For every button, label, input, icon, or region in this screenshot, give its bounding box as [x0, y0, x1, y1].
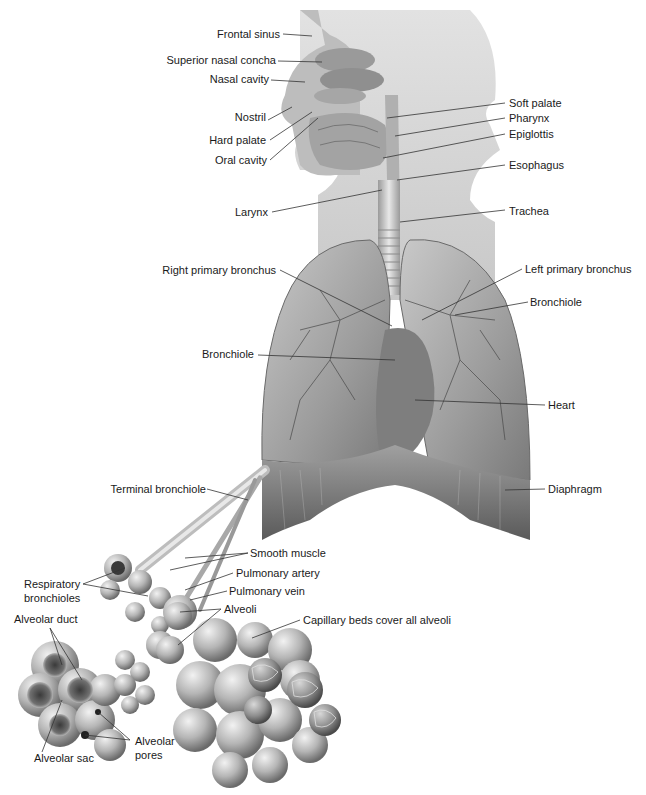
label-pulmonary-artery: Pulmonary artery	[236, 567, 320, 580]
label-frontal-sinus: Frontal sinus	[217, 28, 280, 41]
label-terminal-bronchiole: Terminal bronchiole	[111, 483, 206, 496]
label-pulmonary-vein: Pulmonary vein	[229, 585, 305, 598]
label-heart: Heart	[548, 399, 575, 412]
label-diaphragm: Diaphragm	[548, 483, 602, 496]
label-oral-cavity: Oral cavity	[215, 154, 267, 167]
label-esophagus: Esophagus	[509, 159, 564, 172]
respiratory-diagram: Frontal sinus Superior nasal concha Nasa…	[0, 0, 646, 795]
label-respiratory-bronchioles-line1: Respiratory	[24, 578, 80, 591]
label-left-primary-bronchus: Left primary bronchus	[525, 263, 631, 276]
label-alveolar-pores-line2: pores	[135, 749, 163, 762]
label-bronchiole-right: Bronchiole	[202, 348, 254, 361]
label-nasal-cavity: Nasal cavity	[210, 73, 269, 86]
label-hard-palate: Hard palate	[209, 134, 266, 147]
label-alveolar-duct: Alveolar duct	[14, 613, 78, 626]
label-respiratory-bronchioles-line2: bronchioles	[24, 592, 80, 605]
label-superior-nasal-concha: Superior nasal concha	[167, 54, 276, 67]
label-pharynx: Pharynx	[509, 112, 549, 125]
label-smooth-muscle: Smooth muscle	[250, 547, 326, 560]
label-right-primary-bronchus: Right primary bronchus	[162, 264, 276, 277]
label-alveolar-pores-line1: Alveolar	[135, 735, 175, 748]
label-capillary-beds: Capillary beds cover all alveoli	[303, 614, 451, 627]
label-soft-palate: Soft palate	[509, 97, 562, 110]
label-alveolar-sac: Alveolar sac	[34, 752, 94, 765]
label-epiglottis: Epiglottis	[509, 128, 554, 141]
label-alveoli: Alveoli	[224, 603, 256, 616]
label-larynx: Larynx	[235, 206, 268, 219]
label-nostril: Nostril	[235, 111, 266, 124]
label-trachea: Trachea	[509, 205, 549, 218]
label-bronchiole-left: Bronchiole	[530, 296, 582, 309]
